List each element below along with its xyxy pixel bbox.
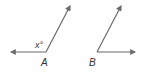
angle-b-vertex-label: B [89,57,96,68]
ray-a-upright [46,6,70,52]
angle-a-measure-label: x° [34,40,44,50]
angle-a-vertex-label: A [40,57,48,68]
ray-b-upright [97,6,121,52]
angle-b: B [89,6,135,68]
angle-diagram: x° A B [0,0,143,72]
angle-a: x° A [11,6,70,68]
